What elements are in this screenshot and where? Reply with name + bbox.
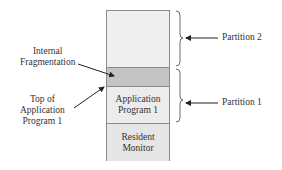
partition2-brace-icon (176, 11, 183, 66)
partition1-brace-icon (176, 69, 183, 122)
diagram-annotations (0, 0, 282, 170)
top-of-app-arrow-icon (74, 87, 104, 108)
fragmentation-arrow-icon (78, 64, 114, 76)
